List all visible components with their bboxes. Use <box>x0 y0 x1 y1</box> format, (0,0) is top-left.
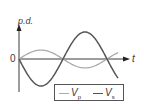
legend-label-vs: Vs <box>105 88 115 102</box>
x-axis-arrow-icon <box>123 57 130 62</box>
legend-label-vp: Vp <box>71 88 81 102</box>
origin-label: 0 <box>10 54 16 64</box>
x-axis-label: t <box>132 54 135 64</box>
vs-swatch <box>93 93 103 94</box>
y-axis-label: p.d. <box>18 16 33 26</box>
legend: Vp Vs <box>54 84 124 101</box>
vp-swatch <box>59 93 69 94</box>
